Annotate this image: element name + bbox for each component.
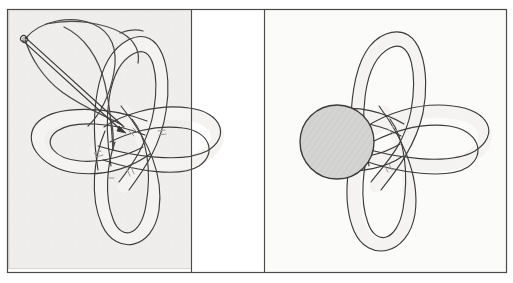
panel-middle-background — [192, 10, 265, 272]
bead-ball — [300, 105, 374, 179]
figure-illustration — [0, 0, 513, 283]
figure-root — [0, 0, 513, 283]
